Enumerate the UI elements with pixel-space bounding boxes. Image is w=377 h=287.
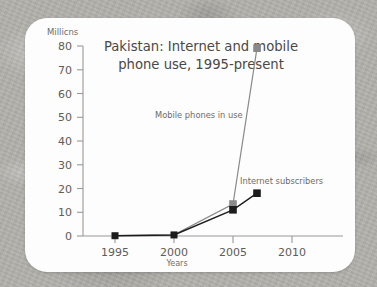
series-line-internet-subscribers bbox=[115, 193, 257, 236]
y-tick-label-0: 0 bbox=[65, 230, 72, 243]
x-axis-title: Years bbox=[165, 259, 187, 268]
y-tick-label-50: 50 bbox=[58, 111, 72, 124]
x-tick-label-2010: 2010 bbox=[278, 246, 306, 259]
y-tick-label-60: 60 bbox=[58, 88, 72, 101]
chart-title-line-1: Pakistan: Internet and mobile bbox=[104, 39, 298, 54]
chart-title-line-2: phone use, 1995-present bbox=[118, 57, 284, 72]
y-axis-unit-label: Millicns bbox=[47, 27, 79, 37]
x-axis-ticks bbox=[115, 236, 292, 243]
x-tick-label-2000: 2000 bbox=[160, 246, 188, 259]
series-markers-internet-subscribers bbox=[112, 189, 261, 239]
y-tick-label-80: 80 bbox=[58, 40, 72, 53]
annotation-internet-subscribers: Internet subscribers bbox=[240, 176, 323, 186]
line-chart: Millicns Pakistan: Internet and mobile p… bbox=[25, 18, 355, 272]
x-tick-label-2005: 2005 bbox=[219, 246, 247, 259]
y-tick-label-70: 70 bbox=[58, 64, 72, 77]
y-tick-label-10: 10 bbox=[58, 206, 72, 219]
x-tick-label-1995: 1995 bbox=[101, 246, 129, 259]
chart-card: Millicns Pakistan: Internet and mobile p… bbox=[25, 18, 355, 272]
series-markers-mobile-phones bbox=[112, 44, 261, 239]
y-tick-label-20: 20 bbox=[58, 183, 72, 196]
annotation-mobile-phones: Mobile phones in use bbox=[155, 110, 243, 120]
y-tick-label-30: 30 bbox=[58, 159, 72, 172]
y-axis-ticks bbox=[77, 46, 83, 236]
y-tick-label-40: 40 bbox=[58, 135, 72, 148]
